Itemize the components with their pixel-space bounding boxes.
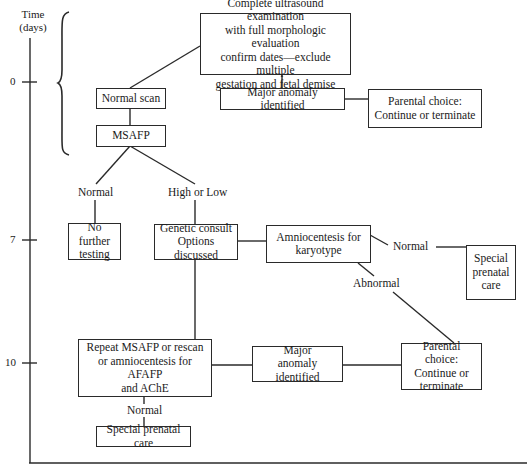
axis-title-time: Time — [18, 8, 48, 21]
tick-label-7: 7 — [10, 233, 16, 245]
tick-label-10: 10 — [5, 356, 16, 368]
node-msafp: MSAFP — [96, 125, 166, 147]
edge-label-repeat-normal: Normal — [127, 404, 162, 417]
node-major-anomaly-top: Major anomaly identified — [220, 88, 345, 110]
node-parental-choice-bottom: Parental choice: Continue or terminate — [401, 343, 482, 390]
node-special-prenatal-care-right: Special prenatal care — [466, 245, 516, 300]
edge-label-high-or-low: High or Low — [168, 186, 227, 199]
node-genetic-consult: Genetic consult Options discussed — [154, 224, 238, 260]
node-special-prenatal-care-bottom: Special prenatal care — [96, 426, 191, 447]
edge-label-msafp-normal: Normal — [78, 186, 113, 199]
tick-label-0: 0 — [10, 75, 16, 87]
node-amniocentesis-karyotype: Amniocentesis for karyotype — [266, 225, 371, 263]
axis-title-units: (days) — [18, 21, 48, 34]
node-normal-scan: Normal scan — [96, 88, 166, 109]
edge-label-amnio-normal: Normal — [393, 240, 428, 253]
node-repeat-msafp: Repeat MSAFP or rescan or amniocentesis … — [78, 339, 212, 397]
axis-title: Time (days) — [18, 8, 48, 34]
node-major-anomaly-bottom: Major anomaly identified — [252, 346, 343, 382]
node-parental-choice-top: Parental choice: Continue or terminate — [368, 89, 482, 128]
edge-label-amnio-abnormal: Abnormal — [353, 277, 400, 290]
brace-icon — [58, 12, 69, 155]
node-complete-ultrasound: Complete ultrasound examination with ful… — [200, 13, 351, 75]
node-no-further-testing: No further testing — [68, 223, 121, 260]
